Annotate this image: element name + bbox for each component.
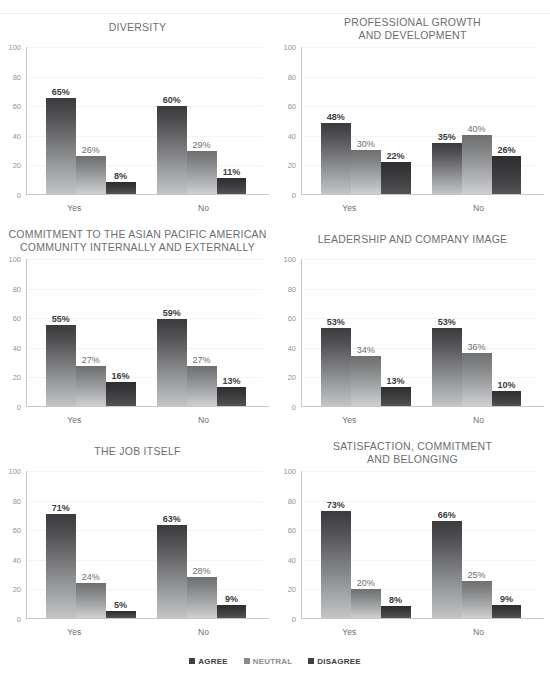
bar-neutral[interactable]: 25%: [462, 581, 492, 618]
bar-disagree[interactable]: 26%: [492, 156, 522, 194]
bar-disagree[interactable]: 9%: [492, 605, 522, 618]
x-axis-category-label: No: [473, 415, 484, 425]
bar-neutral[interactable]: 27%: [187, 366, 217, 406]
legend-item-agree[interactable]: AGREE: [189, 657, 227, 666]
y-axis-tick-label: 100: [283, 43, 296, 52]
x-axis-line: [26, 194, 269, 195]
bar-agree[interactable]: 59%: [157, 319, 187, 406]
chart-title: LEADERSHIP AND COMPANY IMAGE: [275, 225, 550, 253]
bar-neutral[interactable]: 26%: [76, 156, 106, 194]
bar-disagree[interactable]: 10%: [492, 391, 522, 406]
y-axis-tick-label: 60: [288, 526, 296, 535]
bar-group: 55%27%16%: [46, 259, 136, 406]
y-axis-tick-label: 80: [13, 284, 21, 293]
bar-agree[interactable]: 55%: [46, 325, 76, 406]
bar-disagree[interactable]: 8%: [106, 182, 136, 194]
y-axis-tick-label: 20: [288, 161, 296, 170]
y-axis-tick-label: 20: [288, 585, 296, 594]
chart-title: DIVERSITY: [0, 13, 275, 41]
bar-fill: [351, 589, 381, 618]
y-axis-tick-label: 100: [8, 43, 21, 52]
bar-value-label: 10%: [497, 380, 515, 390]
y-axis-tick-label: 100: [8, 255, 21, 264]
chart-title-line: COMMITMENT TO THE ASIAN PACIFIC AMERICAN: [0, 228, 275, 241]
bar-fill: [76, 583, 106, 618]
bar-fill: [157, 525, 187, 618]
x-axis-line: [301, 618, 544, 619]
bar-agree[interactable]: 73%: [321, 511, 351, 618]
bar-value-label: 27%: [193, 355, 211, 365]
bar-value-label: 9%: [225, 594, 238, 604]
bar-neutral[interactable]: 36%: [462, 353, 492, 406]
bar-value-label: 9%: [500, 594, 513, 604]
bar-value-label: 29%: [193, 140, 211, 150]
chart-title-line: AND DEVELOPMENT: [275, 29, 550, 42]
bars-layer: 73%20%8%66%25%9%: [302, 471, 538, 618]
bar-agree[interactable]: 65%: [46, 98, 76, 194]
bar-value-label: 22%: [387, 151, 405, 161]
bar-value-label: 20%: [357, 578, 375, 588]
bar-agree[interactable]: 53%: [321, 328, 351, 406]
bar-fill: [321, 123, 351, 194]
bar-agree[interactable]: 35%: [432, 143, 462, 194]
bar-fill: [217, 387, 247, 406]
bar-neutral[interactable]: 29%: [187, 151, 217, 194]
bar-value-label: 27%: [82, 355, 100, 365]
bar-disagree[interactable]: 9%: [217, 605, 247, 618]
y-axis-tick-label: 0: [17, 191, 21, 200]
y-axis-tick-label: 80: [288, 72, 296, 81]
y-axis-tick-label: 80: [13, 496, 21, 505]
bar-neutral[interactable]: 34%: [351, 356, 381, 406]
y-axis-tick-label: 40: [288, 343, 296, 352]
bar-group: 63%28%9%: [157, 471, 247, 618]
y-axis: 020406080100: [0, 471, 24, 619]
bar-neutral[interactable]: 20%: [351, 589, 381, 618]
bar-neutral[interactable]: 30%: [351, 150, 381, 194]
bar-fill: [492, 156, 522, 194]
bar-agree[interactable]: 48%: [321, 123, 351, 194]
bar-fill: [351, 356, 381, 406]
legend-item-neutral[interactable]: NEUTRAL: [244, 657, 293, 666]
bar-fill: [76, 156, 106, 194]
bar-fill: [46, 98, 76, 194]
bar-group: 48%30%22%: [321, 47, 411, 194]
bar-value-label: 24%: [82, 572, 100, 582]
bar-neutral[interactable]: 27%: [76, 366, 106, 406]
bar-disagree[interactable]: 22%: [381, 162, 411, 194]
axis-area: 65%26%8%60%29%11%: [26, 47, 263, 195]
bar-agree[interactable]: 53%: [432, 328, 462, 406]
bar-fill: [492, 605, 522, 618]
legend-label: NEUTRAL: [253, 657, 293, 666]
bar-group: 53%34%13%: [321, 259, 411, 406]
chart-title-line: THE JOB ITSELF: [0, 445, 275, 458]
y-axis-tick-label: 100: [283, 255, 296, 264]
y-axis-tick-label: 40: [13, 343, 21, 352]
bar-neutral[interactable]: 24%: [76, 583, 106, 618]
chart-title: SATISFACTION, COMMITMENTAND BELONGING: [275, 437, 550, 465]
bar-value-label: 8%: [114, 171, 127, 181]
y-axis-tick-label: 20: [13, 161, 21, 170]
bar-agree[interactable]: 66%: [432, 521, 462, 618]
y-axis-tick-label: 60: [288, 102, 296, 111]
legend-label: DISAGREE: [317, 657, 360, 666]
y-axis-tick-label: 80: [13, 72, 21, 81]
legend-item-disagree[interactable]: DISAGREE: [308, 657, 360, 666]
bar-disagree[interactable]: 11%: [217, 178, 247, 194]
bar-fill: [381, 606, 411, 618]
bar-neutral[interactable]: 28%: [187, 577, 217, 618]
x-axis-line: [301, 406, 544, 407]
bar-value-label: 26%: [82, 145, 100, 155]
bar-agree[interactable]: 60%: [157, 106, 187, 194]
axis-area: 55%27%16%59%27%13%: [26, 259, 263, 407]
bar-disagree[interactable]: 13%: [381, 387, 411, 406]
bar-disagree[interactable]: 13%: [217, 387, 247, 406]
bar-agree[interactable]: 63%: [157, 525, 187, 618]
bar-disagree[interactable]: 8%: [381, 606, 411, 618]
bar-fill: [381, 162, 411, 194]
bar-disagree[interactable]: 5%: [106, 611, 136, 618]
bar-agree[interactable]: 71%: [46, 514, 76, 618]
bar-neutral[interactable]: 40%: [462, 135, 492, 194]
axis-area: 73%20%8%66%25%9%: [301, 471, 538, 619]
bar-disagree[interactable]: 16%: [106, 382, 136, 406]
y-axis-tick-label: 80: [288, 284, 296, 293]
